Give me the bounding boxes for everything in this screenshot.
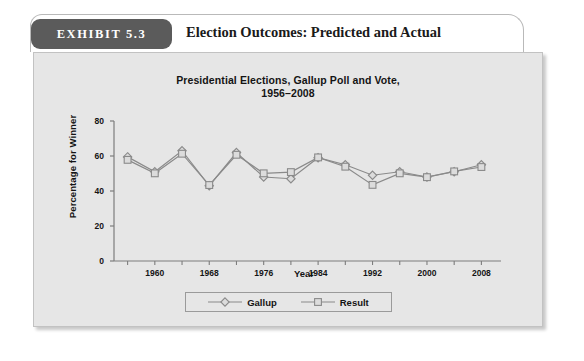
x-tick-label: 2008 xyxy=(461,268,501,278)
data-point xyxy=(368,171,376,179)
diamond-marker-icon xyxy=(208,296,242,308)
exhibit-container: EXHIBIT 5.3 Election Outcomes: Predicted… xyxy=(30,14,554,344)
legend-label: Gallup xyxy=(247,297,277,308)
chart-area: Presidential Elections, Gallup Poll and … xyxy=(34,53,542,326)
chart-legend: GallupResult xyxy=(185,292,392,312)
exhibit-panel: Presidential Elections, Gallup Poll and … xyxy=(33,52,543,327)
x-tick-label: 1960 xyxy=(135,268,175,278)
data-point xyxy=(424,174,431,181)
data-point xyxy=(369,181,376,188)
exhibit-number-badge: EXHIBIT 5.3 xyxy=(31,19,172,49)
data-point xyxy=(342,163,349,170)
data-point xyxy=(260,170,267,177)
y-tick-label: 40 xyxy=(84,186,104,196)
series-group xyxy=(123,147,485,190)
data-point xyxy=(451,168,458,175)
data-point xyxy=(124,156,131,163)
data-point xyxy=(206,182,213,189)
data-point xyxy=(315,154,322,161)
axes-group xyxy=(110,121,501,265)
y-tick-label: 0 xyxy=(84,256,104,266)
data-point xyxy=(179,150,186,157)
chart-plot xyxy=(34,53,544,328)
legend-entry-gallup[interactable]: Gallup xyxy=(208,296,277,308)
x-tick-label: 1968 xyxy=(189,268,229,278)
y-tick-label: 20 xyxy=(84,221,104,231)
x-tick-label: 1976 xyxy=(244,268,284,278)
data-point xyxy=(396,170,403,177)
x-tick-label: 1984 xyxy=(298,268,338,278)
data-point xyxy=(233,151,240,158)
y-tick-label: 60 xyxy=(84,151,104,161)
legend-entry-result[interactable]: Result xyxy=(301,296,369,308)
x-tick-label: 2000 xyxy=(407,268,447,278)
exhibit-title: Election Outcomes: Predicted and Actual xyxy=(186,24,441,41)
y-tick-label: 80 xyxy=(84,116,104,126)
square-marker-icon xyxy=(301,296,335,308)
series-gallup xyxy=(123,147,485,190)
data-point xyxy=(287,169,294,176)
series-result xyxy=(124,150,485,188)
legend-label: Result xyxy=(340,297,369,308)
data-point xyxy=(151,170,158,177)
x-tick-label: 1992 xyxy=(353,268,393,278)
data-point xyxy=(478,164,485,171)
